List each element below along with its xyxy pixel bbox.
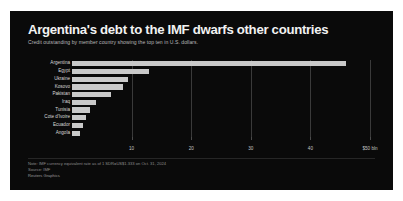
y-axis-label: Egypt	[12, 68, 70, 75]
x-tick-mark	[251, 137, 252, 140]
page-title: Argentina's debt to the IMF dwarfs other…	[28, 22, 328, 37]
y-axis-label: Ecuador	[12, 122, 70, 129]
y-axis-label: Pakistan	[12, 91, 70, 98]
plot-area: ArgentinaEgyptUkraineKosovoPakistanIraqT…	[72, 60, 376, 137]
y-axis-label: Kosovo	[12, 84, 70, 91]
bar	[72, 131, 80, 136]
y-axis-label: Iraq	[12, 99, 70, 106]
bar-row	[72, 92, 376, 97]
bar-row	[72, 115, 376, 120]
y-axis-label: Cote d'Ivoire	[12, 114, 70, 121]
x-tick-mark	[132, 137, 133, 140]
bar-row	[72, 123, 376, 128]
bar	[72, 107, 90, 112]
x-tick-label: 40	[308, 146, 313, 151]
x-tick-label: 20	[189, 146, 194, 151]
bar-row	[72, 61, 376, 66]
y-axis-label: Tunisia	[12, 107, 70, 114]
footer: Note: IMF currency equivalent rate as of…	[28, 161, 368, 180]
x-axis: 10203040$50 bln	[72, 137, 376, 151]
bar-row	[72, 77, 376, 82]
x-tick-mark	[310, 137, 311, 140]
x-tick-mark	[370, 137, 371, 140]
chart-subtitle: Credit outstanding by member country sho…	[28, 39, 198, 45]
x-tick-label: 10	[129, 146, 134, 151]
x-tick-mark	[191, 137, 192, 140]
bar-row	[72, 107, 376, 112]
y-axis-label: Argentina	[12, 60, 70, 67]
credit-text: Reuters Graphics	[28, 173, 368, 179]
y-axis-label: Ukraine	[12, 76, 70, 83]
bar-row	[72, 69, 376, 74]
bar	[72, 100, 96, 105]
bar-row	[72, 100, 376, 105]
chart-card: Argentina's debt to the IMF dwarfs other…	[10, 11, 393, 190]
footer-divider	[28, 158, 375, 159]
x-tick-label: 30	[248, 146, 253, 151]
bar	[72, 84, 123, 89]
bar	[72, 92, 111, 97]
x-tick-label: $50 bln	[362, 146, 377, 151]
bar	[72, 123, 83, 128]
y-axis-label: Angola	[12, 130, 70, 137]
bar	[72, 77, 128, 82]
bar	[72, 61, 346, 66]
bar	[72, 69, 149, 74]
bar-row	[72, 131, 376, 136]
bar-row	[72, 84, 376, 89]
bar	[72, 115, 86, 120]
